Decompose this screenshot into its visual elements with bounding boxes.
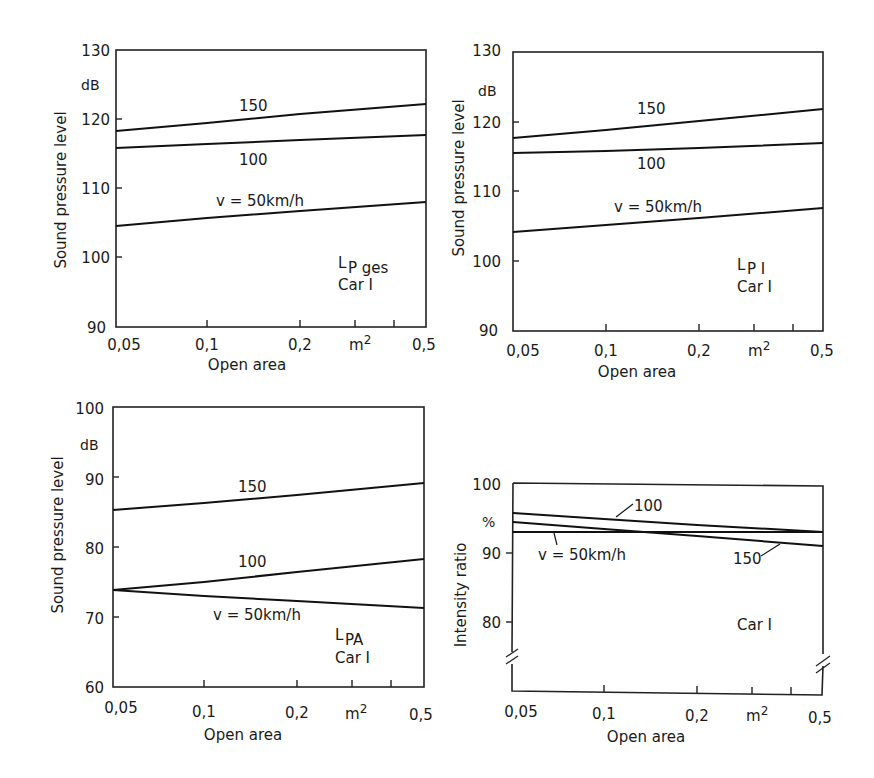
svg-text:120: 120 xyxy=(472,114,501,132)
x-ticks xyxy=(207,320,394,327)
label-100: 100 xyxy=(238,553,267,571)
y-tick-110: 110 xyxy=(81,180,110,198)
svg-text:100: 100 xyxy=(472,253,501,271)
annotation-sub: PA xyxy=(345,631,364,649)
svg-text:0,05: 0,05 xyxy=(107,336,140,354)
leader-50 xyxy=(554,533,557,545)
annotation-L: L xyxy=(335,626,344,644)
annotation-L: L xyxy=(737,256,746,274)
y-tick-130: 130 xyxy=(81,42,110,60)
annotation-car: Car I xyxy=(737,278,772,296)
y-axis-label: Sound pressure level xyxy=(49,456,67,613)
y-unit: dB xyxy=(81,77,100,93)
svg-text:100: 100 xyxy=(472,476,501,494)
label-50: v = 50km/h xyxy=(614,198,702,216)
annotation-car: Car I xyxy=(335,649,370,667)
annotation-L: L xyxy=(338,254,347,272)
label-150: 150 xyxy=(733,550,762,568)
x-ticks xyxy=(204,680,391,687)
svg-text:0,1: 0,1 xyxy=(592,705,616,723)
y-tick-100: 100 xyxy=(81,249,110,267)
svg-text:0,05: 0,05 xyxy=(504,703,537,721)
x-axis-label: Open area xyxy=(204,726,282,744)
svg-text:80: 80 xyxy=(85,540,104,558)
y-tick-90: 90 xyxy=(87,319,106,337)
y-tick-labels: 100 90 80 xyxy=(472,476,501,632)
chart-top-right: 130 120 110 100 90 dB Sound pressure lev… xyxy=(440,0,874,390)
series-150 xyxy=(513,522,823,546)
svg-text:0,5: 0,5 xyxy=(409,706,433,724)
series-100 xyxy=(513,143,823,153)
y-tick-120: 120 xyxy=(81,111,110,129)
annotation-car: Car I xyxy=(338,276,373,294)
series-100 xyxy=(116,135,426,148)
y-ticks xyxy=(116,119,122,257)
x-unit: m2 xyxy=(748,339,770,360)
svg-text:0,05: 0,05 xyxy=(506,342,539,360)
chart-bottom-right: 100 90 80 % Intensity ratio 100 150 v = … xyxy=(440,440,874,778)
leader-100 xyxy=(616,504,633,517)
y-ticks xyxy=(513,122,519,261)
x-unit: m2 xyxy=(345,702,367,723)
leader-150 xyxy=(761,544,780,556)
plot-frame xyxy=(113,407,424,687)
x-unit: m2 xyxy=(349,333,371,354)
y-axis-label: Sound pressure level xyxy=(450,99,468,256)
label-100: 100 xyxy=(634,497,663,515)
label-50: v = 50km/h xyxy=(213,606,301,624)
x-axis-label: Open area xyxy=(607,728,685,746)
plot-frame xyxy=(512,483,823,695)
chart-top-left: 130 120 110 100 90 dB Sound pressure lev… xyxy=(0,0,440,390)
x-unit: m2 xyxy=(746,704,768,725)
svg-text:90: 90 xyxy=(479,322,498,340)
svg-text:0,2: 0,2 xyxy=(288,336,312,354)
svg-text:0,5: 0,5 xyxy=(412,336,436,354)
label-150: 150 xyxy=(637,100,666,118)
x-tick-labels: 0,05 0,1 0,2 0,5 xyxy=(107,336,436,354)
annotation-sub: P ges xyxy=(348,259,389,277)
svg-text:0,2: 0,2 xyxy=(687,342,711,360)
y-axis-label: Intensity ratio xyxy=(452,543,470,648)
x-axis-label: Open area xyxy=(208,356,286,374)
svg-text:0,2: 0,2 xyxy=(685,707,709,725)
x-tick-labels: 0,05 0,1 0,2 0,5 xyxy=(506,342,834,360)
x-axis-label: Open area xyxy=(598,363,676,381)
svg-text:0,5: 0,5 xyxy=(808,709,832,727)
svg-text:0,1: 0,1 xyxy=(192,703,216,721)
plot-frame xyxy=(116,50,426,327)
svg-text:130: 130 xyxy=(472,42,501,60)
svg-text:100: 100 xyxy=(75,400,104,418)
svg-text:110: 110 xyxy=(472,183,501,201)
series-150 xyxy=(113,483,424,510)
svg-text:0,1: 0,1 xyxy=(594,342,618,360)
svg-text:0,5: 0,5 xyxy=(810,342,834,360)
series-100 xyxy=(513,513,823,532)
y-unit: % xyxy=(482,514,495,530)
series-100 xyxy=(113,559,424,590)
svg-text:0,05: 0,05 xyxy=(104,699,137,717)
svg-text:80: 80 xyxy=(482,614,501,632)
svg-text:70: 70 xyxy=(85,610,104,628)
x-tick-labels: 0,05 0,1 0,2 0,5 xyxy=(104,699,433,724)
x-ticks xyxy=(606,324,793,331)
label-100: 100 xyxy=(239,151,268,169)
label-150: 150 xyxy=(238,478,267,496)
svg-text:0,2: 0,2 xyxy=(285,704,309,722)
series-150 xyxy=(116,104,426,131)
y-unit: dB xyxy=(478,83,497,99)
svg-text:60: 60 xyxy=(85,679,104,697)
label-100: 100 xyxy=(637,155,666,173)
svg-text:90: 90 xyxy=(482,545,501,563)
label-50: v = 50km/h xyxy=(538,546,626,564)
x-tick-labels: 0,05 0,1 0,2 0,5 xyxy=(504,703,832,727)
chart-bottom-left: 100 90 80 70 60 dB Sound pressure level … xyxy=(0,390,440,778)
y-ticks xyxy=(113,477,119,617)
plot-frame xyxy=(513,52,823,331)
y-unit: dB xyxy=(80,437,99,453)
annotation-car: Car I xyxy=(737,616,772,634)
svg-text:0,1: 0,1 xyxy=(195,336,219,354)
label-50: v = 50km/h xyxy=(216,192,304,210)
svg-text:90: 90 xyxy=(85,471,104,489)
series-150 xyxy=(513,109,823,138)
annotation-sub: P I xyxy=(747,260,765,278)
